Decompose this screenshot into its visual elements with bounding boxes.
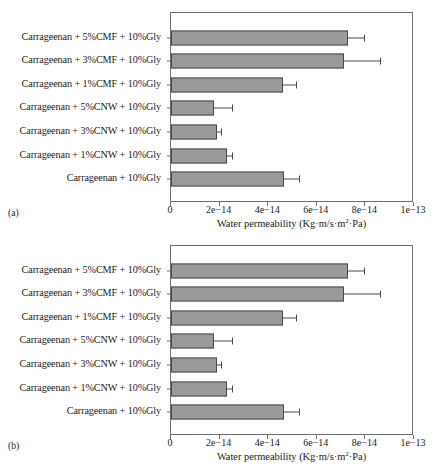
category-label: Carrageenan + 1%CNW + 10%Gly — [0, 143, 166, 167]
error-bar — [344, 61, 380, 62]
error-bar — [284, 412, 299, 413]
bar — [171, 172, 284, 187]
bar — [171, 358, 217, 373]
category-label: Carrageenan + 5%CNW + 10%Gly — [0, 329, 166, 353]
error-bar-cap — [380, 291, 381, 298]
category-label: Carrageenan + 3%CNW + 10%Gly — [0, 352, 166, 376]
bar — [171, 310, 283, 325]
category-label: Carrageenan + 5%CNW + 10%Gly — [0, 96, 166, 120]
bar — [171, 381, 227, 396]
category-label: Carrageenan + 3%CMF + 10%Gly — [0, 282, 166, 306]
error-bar-cap — [364, 267, 365, 274]
category-label: Carrageenan + 1%CMF + 10%Gly — [0, 305, 166, 329]
bar — [171, 125, 217, 140]
category-label: Carrageenan + 5%CMF + 10%Gly — [0, 258, 166, 282]
figure-water-permeability: Carrageenan + 5%CMF + 10%GlyCarrageenan … — [0, 0, 448, 471]
bar-row — [171, 50, 412, 74]
error-bar-cap — [296, 314, 297, 321]
category-label: Carrageenan + 3%CMF + 10%Gly — [0, 49, 166, 73]
category-label: Carrageenan + 10%Gly — [0, 399, 166, 423]
bar-rows-b — [171, 259, 412, 424]
error-bar-cap — [232, 152, 233, 159]
category-label: Carrageenan + 3%CNW + 10%Gly — [0, 119, 166, 143]
x-axis-tick-label: 2e−14 — [206, 437, 231, 448]
bar-row — [171, 120, 412, 144]
category-label: Carrageenan + 1%CMF + 10%Gly — [0, 72, 166, 96]
error-bar — [284, 179, 299, 180]
bar-row — [171, 353, 412, 377]
x-axis-tick-label: 4e−14 — [255, 437, 280, 448]
bar — [171, 287, 344, 302]
bar-row — [171, 73, 412, 97]
bar — [171, 77, 283, 92]
x-axis-tick-label: 6e−14 — [303, 204, 328, 215]
error-bar-cap — [299, 176, 300, 183]
x-axis-tick-label: 8e−14 — [352, 437, 377, 448]
bar-row — [171, 259, 412, 283]
error-bar-cap — [221, 362, 222, 369]
bar-row — [171, 26, 412, 50]
bar — [171, 54, 344, 69]
bar-rows-a — [171, 26, 412, 191]
x-axis-tick-label: 1e−13 — [400, 437, 425, 448]
x-axis-tick-label: 0 — [168, 204, 173, 215]
category-label: Carrageenan + 5%CMF + 10%Gly — [0, 25, 166, 49]
category-label: Carrageenan + 10%Gly — [0, 166, 166, 190]
x-axis-tick-label: 6e−14 — [303, 437, 328, 448]
x-axis-tick-label: 1e−13 — [400, 204, 425, 215]
bar-row — [171, 306, 412, 330]
error-bar — [348, 270, 364, 271]
bar-row — [171, 283, 412, 307]
category-axis-labels-a: Carrageenan + 5%CMF + 10%GlyCarrageenan … — [0, 25, 166, 190]
error-bar — [344, 294, 380, 295]
bar — [171, 405, 284, 420]
panel-tag-a: (a) — [8, 207, 19, 218]
error-bar — [283, 317, 296, 318]
error-bar-cap — [232, 338, 233, 345]
x-axis-tick-label: 4e−14 — [255, 204, 280, 215]
x-axis-title-b: Water permeability (Kg·m/s·m2·Pa) — [170, 450, 413, 462]
error-bar-cap — [232, 105, 233, 112]
bar-row — [171, 330, 412, 354]
bar — [171, 30, 348, 45]
bar-row — [171, 144, 412, 168]
bar-row — [171, 400, 412, 424]
plot-area-b — [170, 245, 413, 435]
category-label: Carrageenan + 1%CNW + 10%Gly — [0, 376, 166, 400]
bar — [171, 148, 227, 163]
x-axis-tick-label: 2e−14 — [206, 204, 231, 215]
chart-panel-a: Carrageenan + 5%CMF + 10%GlyCarrageenan … — [0, 0, 448, 235]
error-bar — [348, 37, 364, 38]
error-bar — [214, 341, 232, 342]
chart-panel-b: Carrageenan + 5%CMF + 10%GlyCarrageenan … — [0, 233, 448, 468]
bar-row — [171, 97, 412, 121]
bar — [171, 101, 214, 116]
bar-row — [171, 377, 412, 401]
error-bar-cap — [296, 81, 297, 88]
error-bar-cap — [380, 58, 381, 65]
error-bar-cap — [232, 385, 233, 392]
plot-area-a — [170, 12, 413, 202]
bar — [171, 334, 214, 349]
x-axis-tick-label: 8e−14 — [352, 204, 377, 215]
category-axis-labels-b: Carrageenan + 5%CMF + 10%GlyCarrageenan … — [0, 258, 166, 423]
x-axis-title-a: Water permeability (Kg·m/s·m2·Pa) — [170, 217, 413, 229]
x-axis-tick-label: 0 — [168, 437, 173, 448]
error-bar-cap — [364, 34, 365, 41]
panel-tag-b: (b) — [8, 440, 19, 451]
error-bar — [214, 108, 232, 109]
error-bar-cap — [299, 409, 300, 416]
bar-row — [171, 167, 412, 191]
x-axis-tick-labels-b: 02e−144e−146e−148e−141e−13 — [0, 437, 448, 451]
error-bar-cap — [221, 129, 222, 136]
x-axis-tick-labels-a: 02e−144e−146e−148e−141e−13 — [0, 204, 448, 218]
error-bar — [283, 84, 296, 85]
bar — [171, 263, 348, 278]
